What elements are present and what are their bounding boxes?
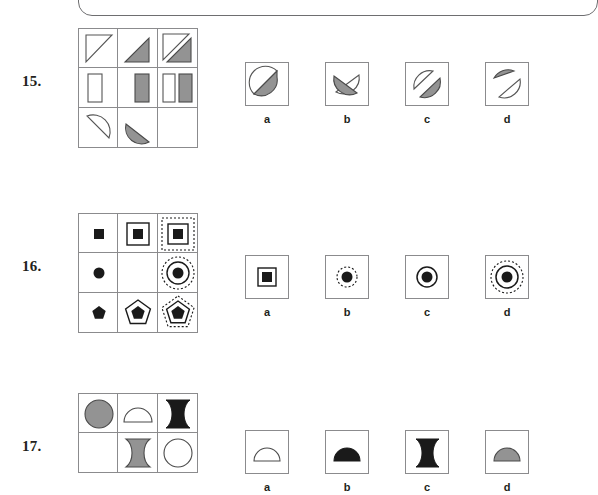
matrix-cell-r2c2-empty: [118, 253, 157, 292]
matrix-cell-r1c3: [158, 214, 197, 253]
option-c-box[interactable]: [405, 430, 449, 474]
matrix-cell-r1c1: [79, 214, 118, 253]
option-d[interactable]: d: [485, 62, 529, 125]
option-a[interactable]: a: [245, 430, 289, 493]
option-a-label: a: [245, 306, 289, 318]
matrix-cell-r1c3: [158, 29, 197, 68]
question-15-matrix: [78, 28, 198, 148]
option-b-label: b: [325, 306, 369, 318]
option-c-label: c: [405, 113, 449, 125]
option-a-box[interactable]: [245, 255, 289, 299]
matrix-cell-r1c1: [79, 29, 118, 68]
option-b-box[interactable]: [325, 62, 369, 106]
matrix-cell-r2c3: [158, 68, 197, 107]
matrix-cell-r2c2: [118, 433, 157, 472]
option-c-box[interactable]: [405, 255, 449, 299]
option-d-box[interactable]: [485, 430, 529, 474]
question-16-matrix: [78, 213, 198, 333]
option-b-label: b: [325, 481, 369, 493]
question-16-options: a b c: [245, 255, 550, 325]
option-a-label: a: [245, 113, 289, 125]
option-b[interactable]: b: [325, 62, 369, 125]
option-d-label: d: [485, 113, 529, 125]
matrix-cell-r2c2: [118, 68, 157, 107]
question-17-number: 17.: [22, 438, 41, 455]
matrix-cell-r1c2: [118, 29, 157, 68]
matrix-cell-r1c3: [158, 394, 197, 433]
option-d-box[interactable]: [485, 255, 529, 299]
option-c[interactable]: c: [405, 430, 449, 493]
matrix-cell-r2c1: [79, 253, 118, 292]
matrix-cell-r2c1: [79, 68, 118, 107]
question-16-number: 16.: [22, 258, 41, 275]
question-17-options: a b c d: [245, 430, 550, 495]
option-c-box[interactable]: [405, 62, 449, 106]
option-c[interactable]: c: [405, 255, 449, 318]
option-a[interactable]: a: [245, 255, 289, 318]
matrix-cell-r2c3: [158, 433, 197, 472]
option-d-box[interactable]: [485, 62, 529, 106]
matrix-cell-r3c3-empty: [158, 108, 197, 147]
page-border-frame: [78, 0, 598, 16]
option-a-label: a: [245, 481, 289, 493]
option-c-label: c: [405, 306, 449, 318]
question-17-matrix: [78, 393, 198, 473]
matrix-cell-r3c3: [158, 293, 197, 332]
matrix-cell-r1c1: [79, 394, 118, 433]
option-d-label: d: [485, 481, 529, 493]
question-15-number: 15.: [22, 73, 41, 90]
option-a-box[interactable]: [245, 430, 289, 474]
option-b[interactable]: b: [325, 430, 369, 493]
option-a[interactable]: a: [245, 62, 289, 125]
matrix-cell-r3c2: [118, 293, 157, 332]
option-d[interactable]: d: [485, 430, 529, 493]
matrix-cell-r2c3: [158, 253, 197, 292]
option-b[interactable]: b: [325, 255, 369, 318]
option-a-box[interactable]: [245, 62, 289, 106]
matrix-cell-r3c1: [79, 108, 118, 147]
option-d-label: d: [485, 306, 529, 318]
matrix-cell-r2c1-empty: [79, 433, 118, 472]
matrix-cell-r1c2: [118, 214, 157, 253]
option-b-box[interactable]: [325, 255, 369, 299]
option-c-label: c: [405, 481, 449, 493]
option-c[interactable]: c: [405, 62, 449, 125]
question-15-options: a b c: [245, 62, 550, 132]
matrix-cell-r3c1: [79, 293, 118, 332]
matrix-cell-r3c2: [118, 108, 157, 147]
option-b-box[interactable]: [325, 430, 369, 474]
option-d[interactable]: d: [485, 255, 529, 318]
matrix-cell-r1c2: [118, 394, 157, 433]
option-b-label: b: [325, 113, 369, 125]
